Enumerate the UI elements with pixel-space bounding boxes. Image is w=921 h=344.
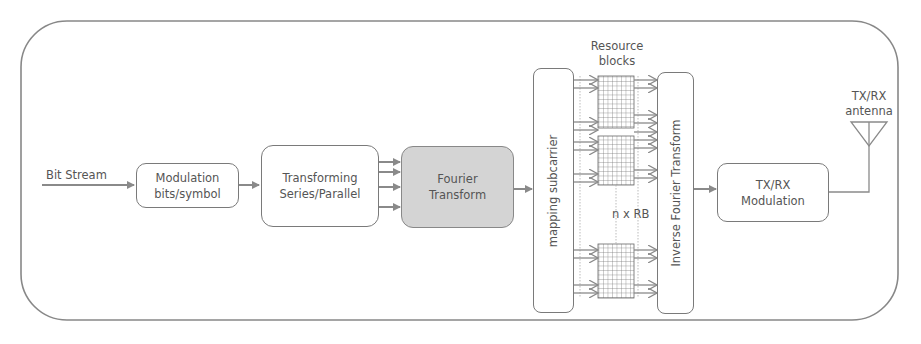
antenna-label-line1: TX/RX xyxy=(836,89,902,104)
resource-block-3 xyxy=(598,244,634,298)
resource-blocks-line2: blocks xyxy=(580,54,654,69)
resource-block-2 xyxy=(598,136,634,185)
serial-parallel-line1: Transforming xyxy=(279,170,360,186)
parallel-arrows xyxy=(378,162,400,207)
resource-block-1 xyxy=(598,76,634,128)
antenna-label: TX/RX antenna xyxy=(836,89,902,119)
modulation-block-line1: Modulation xyxy=(154,170,220,186)
serial-parallel-line2: Series/Parallel xyxy=(279,186,360,202)
txrx-modulation-block[interactable]: TX/RX Modulation xyxy=(717,163,829,222)
antenna-label-line2: antenna xyxy=(836,104,902,119)
mapping-subcarrier-label: mapping subcarrier xyxy=(546,134,562,247)
serial-parallel-block[interactable]: Transforming Series/Parallel xyxy=(261,145,379,227)
fourier-transform-line2: Transform xyxy=(429,187,486,203)
modulation-block-line2: bits/symbol xyxy=(154,186,220,202)
inverse-fourier-label: Inverse Fourier Transform xyxy=(668,119,684,266)
resource-blocks xyxy=(598,76,634,298)
antenna-feed-line xyxy=(828,145,869,192)
fourier-transform-line1: Fourier xyxy=(429,171,486,187)
resource-blocks-line1: Resource xyxy=(580,39,654,54)
mapping-subcarrier-block[interactable]: mapping subcarrier xyxy=(533,68,574,313)
modulation-block[interactable]: Modulation bits/symbol xyxy=(136,163,239,208)
txrx-modulation-line2: Modulation xyxy=(741,193,805,209)
n-rb-label: n x RB xyxy=(612,207,656,222)
bit-stream-label: Bit Stream xyxy=(46,168,126,183)
resource-blocks-label: Resource blocks xyxy=(580,39,654,69)
fourier-transform-block[interactable]: Fourier Transform xyxy=(401,146,514,228)
txrx-modulation-line1: TX/RX xyxy=(741,177,805,193)
inverse-fourier-block[interactable]: Inverse Fourier Transform xyxy=(657,72,694,314)
antenna-icon xyxy=(851,122,887,146)
